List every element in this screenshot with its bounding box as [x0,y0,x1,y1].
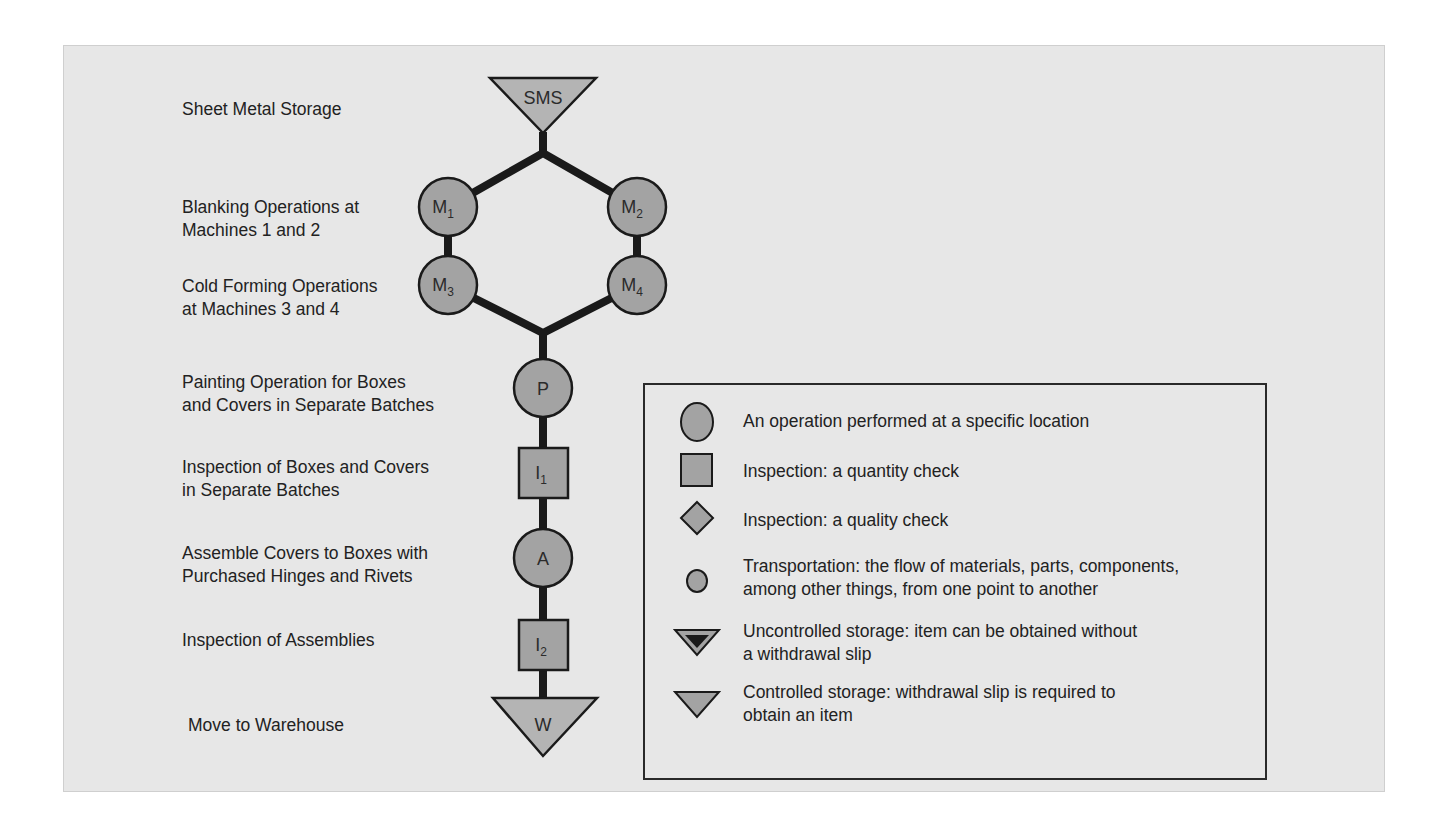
node-subscript: 1 [540,473,547,487]
legend-item-operation: An operation performed at a specific loc… [743,410,1089,433]
assembly-node: A [514,529,572,587]
legend-text-line: obtain an item [743,704,1116,727]
legend-text-line: An operation performed at a specific loc… [743,410,1089,433]
painting-node: P [514,359,572,417]
legend-text-line: a withdrawal slip [743,643,1137,666]
inspection-1-node: I1 [519,448,568,498]
legend-item-transportation: Transportation: the flow of materials, p… [743,555,1179,601]
node-label-p: P [537,379,549,399]
node-label-m3: M [432,275,447,295]
transportation-small-circle-icon [687,570,707,592]
sheet-metal-storage-node: SMS [490,78,596,133]
legend-item-inspection-quality: Inspection: a quality check [743,509,948,532]
node-label-w: W [535,715,552,735]
legend-text-line: Transportation: the flow of materials, p… [743,555,1179,578]
node-subscript: 4 [636,285,643,299]
legend-text-line: Uncontrolled storage: item can be obtain… [743,620,1137,643]
node-subscript: 2 [636,207,643,221]
node-subscript: 3 [447,285,454,299]
node-label-m1: M [432,197,447,217]
node-label-m2: M [621,197,636,217]
node-label-sms: SMS [523,88,562,108]
inspection-quality-diamond-icon [681,502,713,534]
inspection-2-node: I2 [519,620,568,670]
operation-circle-icon [681,403,713,441]
machine-4-node: M4 [608,256,666,314]
node-subscript: 2 [540,645,547,659]
legend-item-uncontrolled-storage: Uncontrolled storage: item can be obtain… [743,620,1137,666]
legend-text-line: Inspection: a quantity check [743,460,959,483]
inspection-quantity-square-icon [681,454,712,486]
uncontrolled-storage-triangle-icon [675,630,719,655]
machine-3-node: M3 [419,256,477,314]
node-subscript: 1 [447,207,454,221]
controlled-storage-triangle-icon [675,692,719,717]
legend-text-line: among other things, from one point to an… [743,578,1179,601]
legend-text-line: Controlled storage: withdrawal slip is r… [743,681,1116,704]
legend-item-inspection-quantity: Inspection: a quantity check [743,460,959,483]
node-label-m4: M [621,275,636,295]
machine-2-node: M2 [608,178,666,236]
legend-box: An operation performed at a specific loc… [643,383,1267,780]
node-label-a: A [537,549,549,569]
warehouse-node: W [493,698,597,756]
machine-1-node: M1 [419,178,477,236]
legend-text-line: Inspection: a quality check [743,509,948,532]
legend-item-controlled-storage: Controlled storage: withdrawal slip is r… [743,681,1116,727]
